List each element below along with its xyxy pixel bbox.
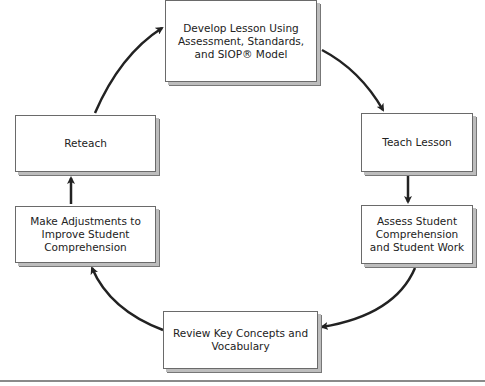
arrow-review-to-adjust (92, 268, 163, 330)
node-review-key-concepts: Review Key Concepts and Vocabulary (163, 311, 318, 369)
bottom-divider (0, 380, 485, 382)
node-make-adjustments: Make Adjustments to Improve Student Comp… (15, 206, 156, 263)
node-label: Make Adjustments to Improve Student Comp… (22, 215, 149, 254)
arrow-assess-to-review (322, 268, 415, 327)
node-develop-lesson: Develop Lesson Using Assessment, Standar… (165, 0, 317, 82)
arrow-reteach-to-develop (95, 28, 162, 113)
node-assess-student: Assess Student Comprehension and Student… (361, 205, 473, 264)
node-reteach: Reteach (15, 115, 156, 172)
node-label: Develop Lesson Using Assessment, Standar… (172, 22, 310, 61)
arrow-develop-to-teach (322, 50, 383, 110)
node-label: Review Key Concepts and Vocabulary (170, 327, 311, 353)
node-label: Teach Lesson (382, 136, 451, 149)
node-label: Assess Student Comprehension and Student… (368, 215, 466, 254)
node-label: Reteach (64, 137, 107, 150)
node-teach-lesson: Teach Lesson (361, 113, 473, 172)
